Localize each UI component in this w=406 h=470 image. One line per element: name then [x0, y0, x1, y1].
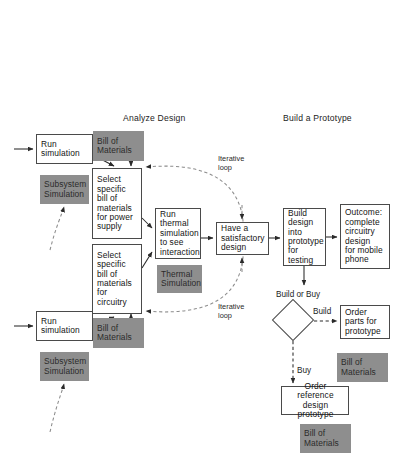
node-run-simulation-top[interactable]: Run simulation	[36, 134, 93, 164]
edge-feed-to-subsystem-top	[50, 207, 64, 250]
node-select-bill-power-supply[interactable]: Select specific bill of materials for po…	[92, 168, 142, 239]
header-build-a-prototype: Build a Prototype	[283, 113, 352, 123]
edge-label-build-branch: Build	[313, 307, 331, 316]
edge-feed-to-subsystem-bottom	[50, 384, 64, 432]
node-subsystem-simulation-top[interactable]: Subsystem Simulation	[40, 175, 89, 204]
node-select-bill-circuitry[interactable]: Select specific bill of materials for ci…	[92, 244, 142, 314]
node-run-simulation-bottom[interactable]: Run simulation	[36, 311, 93, 341]
header-analyze-design: Analyze Design	[123, 113, 186, 123]
node-subsystem-simulation-bottom[interactable]: Subsystem Simulation	[40, 352, 89, 381]
decision-caption-build-or-buy: Build or Buy	[276, 290, 320, 299]
edge-label-iterative-loop-top: Iterative loop	[218, 155, 244, 172]
node-bill-of-materials-reference[interactable]: Bill of Materials	[300, 424, 351, 453]
node-bill-of-materials-bottom-left[interactable]: Bill of Materials	[93, 318, 144, 348]
node-bill-of-materials-order-parts[interactable]: Bill of Materials	[337, 353, 388, 382]
node-order-parts-for-prototype[interactable]: Order parts for prototype	[340, 305, 390, 339]
node-have-satisfactory-design[interactable]: Have a satisfactory design	[216, 222, 269, 255]
node-order-reference-design-prototype[interactable]: Order reference design prototype	[281, 386, 349, 415]
node-thermal-simulation[interactable]: Thermal Simulation	[157, 265, 202, 293]
edge-label-iterative-loop-bottom: Iterative loop	[218, 303, 244, 320]
decision-diamond-build-or-buy[interactable]	[272, 299, 314, 341]
edge-select-power-to-run-thermal	[142, 218, 152, 228]
edge-label-buy-branch: Buy	[297, 366, 311, 375]
node-run-thermal-simulation[interactable]: Run thermal simulation to see interactio…	[155, 208, 201, 259]
node-build-design-into-prototype[interactable]: Build design into prototype for testing	[283, 208, 326, 266]
edge-select-circuitry-to-run-thermal	[142, 252, 152, 268]
diagram-canvas: Analyze Design Build a Prototype Run sim…	[0, 0, 406, 470]
node-bill-of-materials-top[interactable]: Bill of Materials	[93, 131, 144, 161]
node-outcome-complete-circuitry-design[interactable]: Outcome: complete circuitry design for m…	[340, 204, 390, 269]
